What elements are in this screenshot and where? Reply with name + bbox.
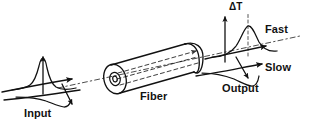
label-slow: Slow [265,62,291,73]
label-delta-t: ΔT [229,2,243,12]
input-pulse-trace [12,58,76,107]
fiber-core-face [108,71,121,86]
fiber-core-channel [117,51,198,85]
input-axis-group [2,57,80,104]
fiber-pulse-diagram: Input Fiber Output Fast Slow ΔT [0,0,311,132]
output-axis-group [196,17,266,78]
label-fast: Fast [265,24,288,35]
label-input: Input [24,108,51,119]
label-output: Output [222,83,259,94]
label-fiber: Fiber [140,91,167,102]
